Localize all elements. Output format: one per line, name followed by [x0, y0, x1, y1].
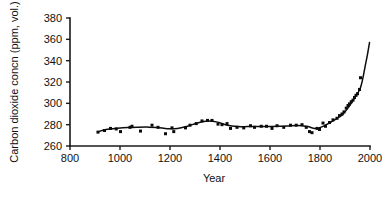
- data-point-marker: [189, 124, 192, 127]
- data-point-marker: [131, 125, 134, 128]
- data-point-marker: [236, 126, 239, 129]
- data-point-marker: [343, 110, 346, 113]
- x-tick-label: 2000: [358, 152, 382, 164]
- data-point-marker: [318, 128, 321, 131]
- data-point-marker: [305, 126, 308, 129]
- y-tick-label: 360: [44, 33, 62, 45]
- data-point-marker: [221, 123, 224, 126]
- co2-concentration-figure: 260280300320340360380 800100012001400160…: [0, 0, 389, 197]
- x-tick-label: 1800: [308, 152, 332, 164]
- data-point-marker: [249, 124, 252, 127]
- data-point-marker: [211, 119, 214, 122]
- y-tick-label: 340: [44, 55, 62, 67]
- data-point-marker: [226, 122, 229, 125]
- data-point-marker: [328, 121, 331, 124]
- data-point-marker: [171, 126, 174, 129]
- x-tick-label: 800: [61, 152, 79, 164]
- data-point-marker: [358, 88, 361, 91]
- data-point-marker: [345, 107, 348, 110]
- data-point-marker: [301, 123, 304, 126]
- data-point-marker: [242, 126, 245, 129]
- y-axis-title: Carbon dioxide concn (ppm, vol.): [8, 1, 20, 162]
- data-point-marker: [201, 119, 204, 122]
- data-point-marker: [119, 130, 122, 133]
- data-point-marker: [276, 124, 279, 127]
- data-point-marker: [322, 122, 325, 125]
- data-point-marker: [184, 126, 187, 129]
- y-tick-label: 320: [44, 76, 62, 88]
- data-point-marker: [332, 118, 335, 121]
- data-point-marker: [97, 131, 100, 134]
- data-point-marker: [172, 130, 175, 133]
- data-point-marker: [359, 76, 362, 79]
- data-point-marker: [206, 119, 209, 122]
- data-point-marker: [103, 129, 106, 132]
- data-point-marker: [265, 125, 268, 128]
- data-point-marker: [139, 130, 142, 133]
- data-point-marker: [253, 126, 256, 129]
- data-point-marker: [151, 124, 154, 127]
- data-point-marker: [289, 124, 292, 127]
- x-axis-title: Year: [203, 172, 226, 184]
- data-point-marker: [352, 99, 355, 102]
- data-point-marker: [164, 132, 167, 135]
- x-tick-label: 1400: [208, 152, 232, 164]
- x-tick-label: 1200: [158, 152, 182, 164]
- data-point-marker: [356, 92, 359, 95]
- data-point-marker: [295, 124, 298, 127]
- x-tick-label: 1000: [108, 152, 132, 164]
- data-point-marker: [311, 131, 314, 134]
- x-tick-label: 1600: [258, 152, 282, 164]
- y-tick-label: 260: [44, 140, 62, 152]
- data-point-marker: [324, 125, 327, 128]
- data-point-marker: [271, 127, 274, 130]
- data-point-marker: [260, 125, 263, 128]
- data-point-marker: [109, 127, 112, 130]
- y-tick-label: 280: [44, 119, 62, 131]
- y-tick-label: 300: [44, 97, 62, 109]
- data-point-marker: [336, 117, 339, 120]
- data-point-marker: [195, 122, 198, 125]
- y-tick-label: 380: [44, 12, 62, 24]
- data-point-marker: [229, 127, 232, 130]
- data-point-marker: [115, 127, 118, 130]
- data-point-marker: [217, 123, 220, 126]
- data-point-marker: [282, 126, 285, 129]
- data-point-marker: [157, 126, 160, 129]
- chart-canvas: 260280300320340360380 800100012001400160…: [0, 0, 389, 197]
